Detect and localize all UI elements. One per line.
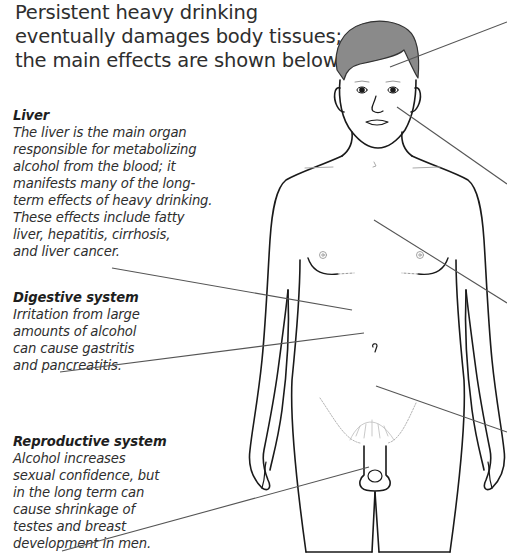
hair-icon: [336, 21, 419, 80]
leader-lower: [376, 386, 507, 432]
leader-lines: [60, 22, 507, 551]
face-outline: [340, 80, 417, 148]
body-left-outline: [250, 156, 343, 490]
body-figure: [0, 0, 507, 556]
navel: [373, 344, 377, 352]
leader-reproductive: [62, 467, 369, 551]
leader-heart: [374, 220, 507, 303]
leader-digestive: [60, 333, 364, 372]
leader-liver: [112, 268, 352, 310]
